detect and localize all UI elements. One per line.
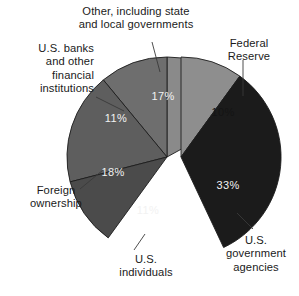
- percent-label-us-government-agencies: 33%: [216, 179, 239, 191]
- callout-label-foreign-ownership: Foreign ownership: [10, 184, 102, 211]
- percent-label-federal-reserve: 10%: [211, 106, 234, 118]
- callout-label-other: Other, including state and local governm…: [70, 5, 202, 32]
- percent-label-us-banks: 11%: [105, 112, 127, 124]
- pie-slice-group-exploded: [181, 57, 281, 248]
- callout-label-us-banks: U.S. banks and other financial instituti…: [2, 42, 94, 96]
- percent-label-other: 17%: [151, 90, 174, 102]
- leader-line-individuals: [134, 234, 145, 250]
- percent-label-us-individuals: 11%: [137, 204, 159, 216]
- callout-label-federal-reserve: Federal Reserve: [210, 37, 288, 64]
- callout-label-us-government-agencies: U.S. government agencies: [216, 234, 296, 274]
- callout-label-us-individuals: U.S. individuals: [103, 253, 189, 280]
- pie-chart-figure: 17% 11% 18% 11% 10% 33% Other, including…: [0, 0, 299, 296]
- percent-label-foreign-ownership: 18%: [101, 166, 124, 178]
